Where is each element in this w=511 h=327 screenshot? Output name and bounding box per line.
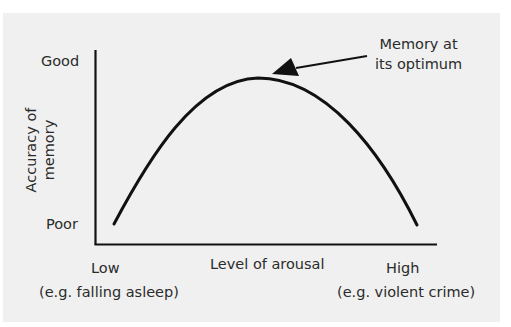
x-axis-left-example: (e.g. falling asleep)	[39, 284, 179, 301]
y-axis-title-line2: memory	[40, 90, 58, 210]
x-axis-title: Level of arousal	[210, 256, 325, 273]
annotation-line2: its optimum	[375, 54, 462, 74]
optimum-annotation: Memory at its optimum	[375, 34, 462, 74]
y-axis-title-line1: Accuracy of	[22, 90, 40, 210]
x-axis-right-label: High	[386, 260, 419, 277]
annotation-arrow-line	[296, 56, 367, 68]
y-axis-bottom-label: Poor	[46, 216, 78, 233]
annotation-arrowhead-icon	[272, 58, 299, 76]
annotation-line1: Memory at	[375, 34, 462, 54]
x-axis-right-example: (e.g. violent crime)	[337, 284, 475, 301]
x-axis-left-label: Low	[91, 260, 120, 277]
arousal-memory-curve	[114, 78, 417, 225]
y-axis-title: Accuracy of memory	[22, 90, 58, 210]
y-axis-top-label: Good	[41, 53, 79, 70]
